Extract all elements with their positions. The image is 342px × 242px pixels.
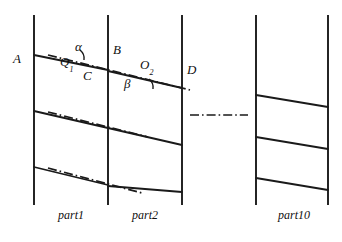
label-point-a: A: [13, 52, 21, 65]
label-angle-alpha: α: [75, 40, 82, 53]
dashdot-chord-middle: [48, 112, 148, 137]
label-node-o2-base: O: [140, 57, 149, 72]
slant-part10-top: [256, 95, 328, 107]
label-node-o2: O2: [140, 58, 153, 75]
label-point-b: B: [113, 43, 121, 56]
label-angle-beta: β: [124, 77, 130, 90]
dashdot-lines-group: [48, 55, 248, 193]
label-node-q1-subscript: 1: [69, 65, 73, 74]
slant-part1-bottom: [34, 167, 108, 185]
slant-part10-bottom: [256, 178, 328, 190]
diagram-vector-layer: [0, 0, 342, 242]
label-point-d: D: [187, 63, 196, 76]
label-node-q1: Q1: [60, 55, 73, 72]
slant-part1-middle: [34, 111, 108, 128]
solid-slanted-lines-group: [34, 55, 328, 192]
slant-part10-middle: [256, 137, 328, 149]
label-point-c: C: [83, 69, 92, 82]
dashdot-chord-bottom: [48, 168, 142, 193]
caption-part2: part2: [132, 209, 158, 221]
caption-part1: part1: [58, 209, 84, 221]
diagram-canvas: A B C D Q1 O2 α β part1 part2 part10: [0, 0, 342, 242]
caption-part10: part10: [278, 209, 310, 221]
label-node-o2-subscript: 2: [149, 68, 153, 77]
label-node-q1-base: Q: [60, 54, 69, 69]
